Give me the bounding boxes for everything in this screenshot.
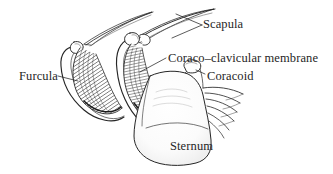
anatomy-illustration <box>0 0 333 174</box>
anatomical-figure: Scapula Coraco–clavicular membrane Corac… <box>0 0 333 174</box>
label-coracoid: Coracoid <box>207 70 254 83</box>
leader-scapula-lower <box>172 25 202 38</box>
label-furcula: Furcula <box>19 70 58 83</box>
label-scapula: Scapula <box>203 18 243 31</box>
label-coraco-clavicular-membrane: Coraco–clavicular membrane <box>168 52 318 65</box>
label-sternum: Sternum <box>170 140 213 153</box>
